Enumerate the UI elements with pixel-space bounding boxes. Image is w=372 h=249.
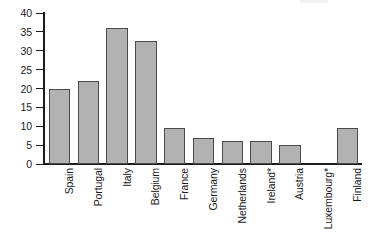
bar-chart: 0510152025303540 SpainPortugalItalyBelgi… (0, 0, 372, 249)
bar-finland (337, 128, 358, 164)
x-axis-label-text: Luxembourg* (323, 168, 333, 229)
bar-germany (193, 138, 214, 164)
bar-ireland (250, 141, 271, 164)
x-axis-label-germany: Germany (208, 168, 218, 210)
y-axis-tick-label: 0 (0, 159, 32, 169)
bar-spain (49, 89, 70, 165)
x-axis-label-spain: Spain (64, 168, 74, 194)
y-axis-tick (36, 126, 43, 127)
x-axis-label-portugal: Portugal (93, 168, 103, 206)
y-axis-tick (36, 145, 43, 146)
bar-belgium (135, 41, 156, 164)
x-axis-label-france: France (179, 168, 189, 200)
y-axis-tick-label: 15 (0, 102, 32, 112)
x-axis-label-text: Finland (352, 168, 362, 202)
x-axis-label-text: Netherlands (237, 168, 247, 224)
bar-austria (279, 145, 300, 164)
y-axis-tick (36, 13, 43, 14)
bar-france (164, 128, 185, 164)
x-axis-label-ireland: Ireland* (266, 168, 276, 203)
y-axis-tick-label: 40 (0, 8, 32, 18)
bars-container (45, 13, 362, 164)
x-axis-label-text: Italy (122, 168, 132, 187)
top-edge-artifact (300, 0, 328, 3)
x-axis-label-text: France (179, 168, 189, 200)
y-axis-tick-label: 20 (0, 84, 32, 94)
y-axis-tick-label: 30 (0, 46, 32, 56)
y-axis-tick (36, 50, 43, 51)
y-axis-tick-label: 5 (0, 140, 32, 150)
bar-italy (106, 28, 127, 164)
x-axis-label-belgium: Belgium (150, 168, 160, 205)
bar-portugal (78, 81, 99, 164)
x-axis-label-text: Spain (64, 168, 74, 194)
y-axis-tick (36, 88, 43, 89)
y-axis-tick (36, 107, 43, 108)
y-axis-tick (36, 164, 43, 165)
y-axis-tick (36, 31, 43, 32)
x-axis-label-text: Ireland* (266, 168, 276, 203)
x-axis-label-text: Austria (294, 168, 304, 200)
x-axis-labels: SpainPortugalItalyBelgiumFranceGermanyNe… (45, 168, 362, 248)
x-axis-label-finland: Finland (352, 168, 362, 202)
x-axis-label-netherlands: Netherlands (237, 168, 247, 224)
bar-netherlands (222, 141, 243, 164)
x-axis-label-text: Belgium (150, 168, 160, 205)
x-axis-label-text: Germany (208, 168, 218, 210)
y-axis-tick (36, 69, 43, 70)
y-axis-tick-label: 25 (0, 65, 32, 75)
x-axis-label-luxembourg: Luxembourg* (323, 168, 333, 229)
y-axis-tick-label: 35 (0, 27, 32, 37)
y-axis-tick-label: 10 (0, 121, 32, 131)
x-axis-label-text: Portugal (93, 168, 103, 206)
x-axis-label-italy: Italy (122, 168, 132, 187)
x-axis-label-austria: Austria (294, 168, 304, 200)
